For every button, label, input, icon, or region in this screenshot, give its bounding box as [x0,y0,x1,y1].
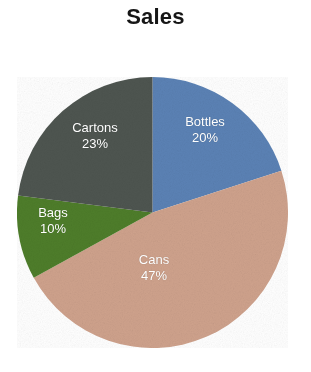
slice-label-cans-percent: 47% [112,268,196,284]
slice-label-bags-percent: 10% [22,221,84,237]
slice-label-cartons: Cartons 23% [53,120,137,152]
slice-label-bags: Bags 10% [22,205,84,237]
slice-label-bags-name: Bags [22,205,84,221]
slice-label-cartons-percent: 23% [53,136,137,152]
slice-label-bottles-name: Bottles [163,114,247,130]
slice-label-cans-name: Cans [112,252,196,268]
slice-label-cans: Cans 47% [112,252,196,284]
pie-chart-figure: Sales Bottles 20% Cartons 23% Bags 10% C… [0,0,311,372]
slice-label-bottles-percent: 20% [163,130,247,146]
chart-title: Sales [0,3,311,31]
slice-label-cartons-name: Cartons [53,120,137,136]
slice-label-bottles: Bottles 20% [163,114,247,146]
